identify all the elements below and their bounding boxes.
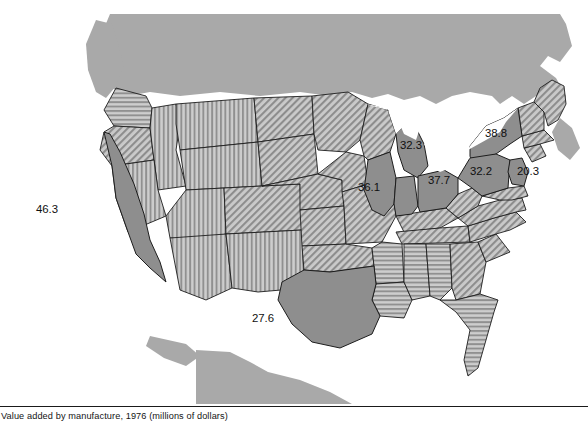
state-region <box>176 98 258 150</box>
us-map-svg: 46.3 27.6 36.1 32.3 37.7 38.8 32.2 20.3 <box>0 0 588 405</box>
figure-caption: Value added by manufacture, 1976 (millio… <box>1 411 587 422</box>
choropleth-map: 46.3 27.6 36.1 32.3 37.7 38.8 32.2 20.3 <box>0 0 588 405</box>
state-region <box>300 206 346 246</box>
state-region <box>426 244 452 300</box>
state-region <box>224 184 302 234</box>
state-region <box>372 242 404 284</box>
state-region <box>180 142 262 190</box>
state-region <box>450 242 486 300</box>
state-region <box>404 244 430 300</box>
figure-value-added-by-manufacture: 46.3 27.6 36.1 32.3 37.7 38.8 32.2 20.3 … <box>0 0 588 427</box>
state-region-indiana <box>394 176 418 216</box>
caption-divider <box>0 406 588 407</box>
